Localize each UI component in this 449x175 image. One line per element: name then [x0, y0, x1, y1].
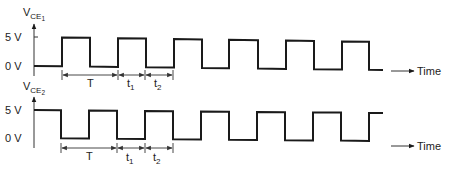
dimension-label-t1: t1: [126, 151, 134, 166]
waveform-diagram: VCE1 5 V 0 V Time Tt1t2 VCE2 5 V 0 V Tim…: [0, 0, 449, 175]
dimension-label-t: T: [87, 77, 94, 89]
dimension-label-t1: t1: [127, 77, 135, 92]
level-5v-label-vce2: 5 V: [5, 104, 22, 116]
signal-label-vce2: VCE2: [23, 80, 45, 96]
square-wave-vce1: [34, 37, 383, 70]
signal-vce1: VCE1 5 V 0 V Time Tt1t2: [5, 6, 441, 92]
level-0v-label-vce1: 0 V: [5, 60, 22, 72]
dimension-lines-vce1: Tt1t2: [62, 70, 173, 92]
dimension-label-t: T: [86, 150, 93, 162]
dimension-label-t2: t2: [153, 151, 161, 166]
time-label-vce2: Time: [417, 140, 441, 152]
signal-vce2: VCE2 5 V 0 V Time Tt1t2: [5, 80, 441, 166]
level-0v-label-vce2: 0 V: [5, 132, 22, 144]
square-wave-vce2: [34, 110, 383, 141]
dimension-lines-vce2: Tt1t2: [61, 143, 173, 166]
dimension-label-t2: t2: [154, 77, 162, 92]
level-5v-label-vce1: 5 V: [5, 31, 22, 43]
signal-label-vce1: VCE1: [23, 6, 45, 22]
time-label-vce1: Time: [417, 65, 441, 77]
